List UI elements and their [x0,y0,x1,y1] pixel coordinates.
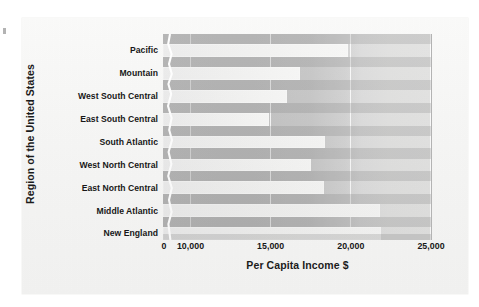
y-tick-east-south-central: East South Central [44,114,158,124]
y-tick-pacific: Pacific [44,45,158,55]
y-tick-new-england: New England [44,228,158,238]
bar-row [163,90,431,103]
row-band [163,103,431,113]
bar-west-south-central [163,90,287,103]
x-tick-25000: 25,000 [417,241,444,251]
y-axis-tick-labels: PacificMountainWest South CentralEast So… [44,34,158,240]
bar-row [163,44,431,57]
x-tick-20000: 20,000 [337,241,364,251]
y-tick-east-north-central: East North Central [44,183,158,193]
y-tick-west-south-central: West South Central [44,91,158,101]
bar-row [163,159,431,172]
x-axis-tick-labels: 010,00015,00020,00025,000 [0,241,479,255]
y-tick-west-north-central: West North Central [44,160,158,170]
row-band [163,126,431,136]
bar-row [163,113,431,126]
chart-page: Region of the United States PacificMount… [0,0,479,307]
bar-east-south-central [163,113,269,126]
bar-east-north-central [163,181,324,194]
bar-row [163,181,431,194]
bar-west-north-central [163,159,311,172]
y-tick-middle-atlantic: Middle Atlantic [44,206,158,216]
bar-row [163,204,431,217]
y-tick-south-atlantic: South Atlantic [44,137,158,147]
row-band [163,217,431,227]
bar-middle-atlantic [163,204,380,217]
bar-pacific [163,44,348,57]
row-band [163,57,431,67]
row-band [163,80,431,90]
x-axis-title: Per Capita Income $ [160,259,435,271]
scan-edge-artifact [3,28,6,34]
y-tick-mountain: Mountain [44,68,158,78]
x-tick-15000: 15,000 [257,241,284,251]
row-band [163,194,431,204]
plot-area [163,34,432,240]
bar-south-atlantic [163,136,325,149]
row-band [163,148,431,158]
bar-row [163,67,431,80]
bar-row [163,136,431,149]
x-tick-10000: 10,000 [177,241,204,251]
x-tick-0: 0 [162,241,167,251]
row-band [163,234,431,240]
y-axis-title: Region of the United States [24,29,36,239]
bar-mountain [163,67,300,80]
row-band [163,171,431,181]
row-band [163,34,431,44]
